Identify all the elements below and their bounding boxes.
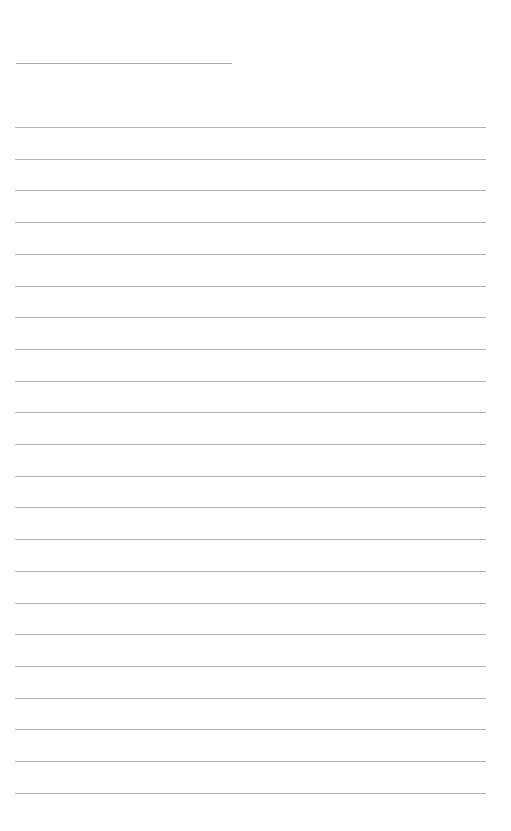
line-text-5[interactable] xyxy=(16,235,484,255)
rule-line-9 xyxy=(15,381,486,382)
rule-line-22 xyxy=(15,793,486,794)
line-text-14[interactable] xyxy=(16,520,484,540)
title-field[interactable] xyxy=(16,44,232,62)
line-text-13[interactable] xyxy=(16,488,484,508)
line-text-4[interactable] xyxy=(16,203,484,223)
line-text-15[interactable] xyxy=(16,552,484,572)
rule-line-21 xyxy=(15,761,486,762)
title-rule xyxy=(16,63,232,64)
line-text-19[interactable] xyxy=(16,679,484,699)
rule-line-14 xyxy=(15,539,486,540)
rule-line-3 xyxy=(15,190,486,191)
line-text-9[interactable] xyxy=(16,362,484,382)
line-text-20[interactable] xyxy=(16,710,484,730)
line-text-8[interactable] xyxy=(16,330,484,350)
line-text-2[interactable] xyxy=(16,140,484,160)
rule-line-19 xyxy=(15,698,486,699)
rule-line-16 xyxy=(15,603,486,604)
line-text-1[interactable] xyxy=(16,108,484,128)
rule-line-12 xyxy=(15,476,486,477)
line-text-16[interactable] xyxy=(16,584,484,604)
rule-line-8 xyxy=(15,349,486,350)
line-text-7[interactable] xyxy=(16,298,484,318)
rule-line-6 xyxy=(15,286,486,287)
line-text-11[interactable] xyxy=(16,425,484,445)
line-text-18[interactable] xyxy=(16,647,484,667)
rule-line-7 xyxy=(15,317,486,318)
rule-line-4 xyxy=(15,222,486,223)
rule-line-17 xyxy=(15,634,486,635)
rule-line-18 xyxy=(15,666,486,667)
rule-line-5 xyxy=(15,254,486,255)
lined-page xyxy=(0,0,511,831)
rule-line-15 xyxy=(15,571,486,572)
line-text-12[interactable] xyxy=(16,457,484,477)
line-text-17[interactable] xyxy=(16,615,484,635)
rule-line-1 xyxy=(15,127,486,128)
line-text-21[interactable] xyxy=(16,742,484,762)
line-text-3[interactable] xyxy=(16,171,484,191)
line-text-10[interactable] xyxy=(16,393,484,413)
rule-line-11 xyxy=(15,444,486,445)
rule-line-13 xyxy=(15,507,486,508)
rule-line-2 xyxy=(15,159,486,160)
line-text-6[interactable] xyxy=(16,267,484,287)
line-text-22[interactable] xyxy=(16,774,484,794)
rule-line-20 xyxy=(15,729,486,730)
rule-line-10 xyxy=(15,412,486,413)
